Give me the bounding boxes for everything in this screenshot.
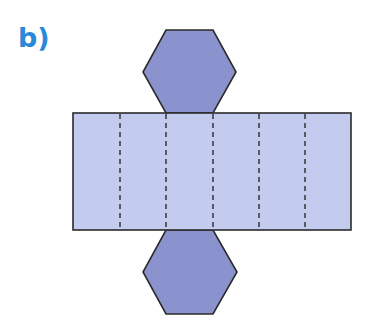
lateral-faces-rectangle — [73, 113, 351, 230]
bottom-hexagon-face — [143, 230, 237, 314]
top-hexagon-face — [143, 30, 236, 113]
hexagonal-prism-net — [0, 0, 374, 330]
